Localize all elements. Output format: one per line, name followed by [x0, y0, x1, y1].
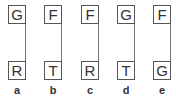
top-letter-box: F [44, 5, 62, 24]
connector-line [134, 24, 135, 61]
figure-label: e [153, 84, 171, 96]
figure-label: b [44, 84, 62, 96]
top-letter-box: G [8, 5, 26, 24]
figure-a: G R a [8, 0, 32, 97]
figure-label: c [81, 84, 99, 96]
connector-line [98, 24, 99, 61]
bottom-letter-box: R [8, 61, 26, 80]
bottom-letter-box: T [44, 61, 62, 80]
figure-label: d [117, 84, 135, 96]
figure-e: F G e [153, 0, 176, 97]
top-letter-box: G [117, 5, 135, 24]
bottom-letter-box: R [81, 61, 99, 80]
figure-b: F T b [44, 0, 68, 97]
figure-label: a [8, 84, 26, 96]
top-letter-box: F [81, 5, 99, 24]
connector-line [61, 24, 62, 61]
bottom-letter-box: T [117, 61, 135, 80]
top-letter-box: F [153, 5, 171, 24]
bottom-letter-box: G [153, 61, 171, 80]
figure-d: G T d [117, 0, 141, 97]
connector-line [25, 24, 26, 61]
figure-c: F R c [81, 0, 105, 97]
connector-line [170, 24, 171, 61]
